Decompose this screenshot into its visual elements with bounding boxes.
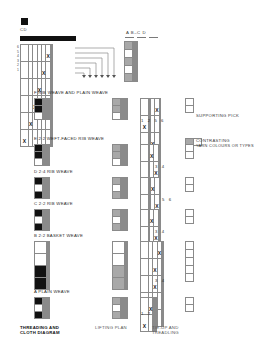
table-row: [113, 152, 128, 159]
table-row: [186, 145, 194, 152]
table-row: [113, 254, 128, 266]
section-swatch-b: [185, 241, 194, 282]
legend-label-supporting-pick: SUPPORTING PICK: [196, 113, 239, 118]
table-row: [35, 278, 50, 290]
table-row: [186, 152, 194, 159]
threading-row-numbers: 6 5 4 3 2 1: [14, 45, 19, 73]
table-row: [186, 266, 194, 274]
table-row: [35, 192, 50, 199]
table-row: [186, 242, 194, 250]
lifting-plan-a: [112, 297, 128, 319]
table-row: [113, 224, 128, 231]
table-row: X: [141, 145, 161, 162]
table-row: [186, 305, 194, 312]
table-row: [35, 266, 50, 278]
grid-mark: X: [46, 53, 49, 59]
treadling-numbers-b: 3 4: [155, 278, 166, 283]
table-row: [125, 42, 138, 50]
lifting-plan-f: [112, 98, 128, 120]
table-row: [186, 210, 194, 217]
grid-mark: X: [153, 284, 156, 290]
table-row: [35, 99, 50, 106]
table-row: [113, 178, 128, 185]
table-row: [125, 58, 138, 66]
table-row: [113, 266, 128, 278]
table-row: X: [141, 259, 164, 276]
key-black-square-icon: [21, 18, 28, 25]
table-row: [35, 312, 50, 319]
table-row: [35, 113, 50, 120]
table-row: [113, 278, 128, 290]
table-row: [113, 242, 128, 254]
table-row: [186, 106, 194, 113]
grid-mark: X: [151, 186, 154, 192]
table-row: [186, 250, 194, 258]
table-row: X: [21, 62, 53, 79]
lifting-plan-d: [112, 177, 128, 199]
table-row: [186, 274, 194, 282]
section-label-d: D 2:4 RIB WEAVE: [34, 169, 73, 174]
table-row: [186, 217, 194, 224]
footer-col3: TIE-UP AND TREADLING: [152, 325, 179, 336]
treadling-numbers-e: 3 4: [155, 164, 166, 169]
footer-col3-line2: TREADLING: [152, 330, 179, 335]
threading-cloth-diagram-c: [34, 209, 50, 231]
table-row: [35, 152, 50, 159]
header-rule: [125, 37, 134, 38]
table-row: [35, 298, 50, 305]
table-row: [125, 50, 138, 58]
grid-mark: X: [155, 107, 158, 113]
footer-col2-line1: LIFTING PLAN: [95, 325, 127, 330]
grid-mark: X: [154, 170, 157, 176]
threading-cloth-diagram-e: [34, 144, 50, 166]
table-row: X: [141, 99, 161, 116]
threading-grid[interactable]: X X X X X X: [20, 44, 53, 147]
section-swatch-c: [185, 209, 194, 224]
table-row: [113, 217, 128, 224]
table-row: [113, 192, 128, 199]
treadling-numbers-d: 5 6: [162, 197, 173, 202]
section-label-f: F RIB WEAVE AND PLAIN WEAVE: [34, 90, 108, 95]
legend-label-contrasting-line2: YARN COLOURS OR TYPES: [196, 143, 254, 148]
table-row: [113, 113, 128, 120]
header-rule: [149, 37, 158, 38]
grid-mark: X: [143, 124, 146, 130]
section-swatch-d: [185, 177, 194, 192]
table-row: X: [141, 242, 164, 259]
threading-cloth-diagram-d: [34, 177, 50, 199]
table-row: [125, 74, 138, 82]
cloth-diagram-top: [124, 41, 138, 82]
grid-mark: X: [153, 267, 156, 273]
legend-swatch-supporting-pick: [185, 98, 194, 113]
lifting-plan-c: [112, 209, 128, 231]
top-header-bar: [20, 36, 76, 41]
table-row: [113, 305, 128, 312]
table-row: [35, 106, 50, 113]
table-row: [113, 210, 128, 217]
table-row: [113, 145, 128, 152]
treadling-numbers-a: 1 2: [141, 311, 152, 316]
key-caption: CD: [20, 27, 27, 32]
table-row: [35, 210, 50, 217]
lifting-plan-b: [112, 241, 128, 290]
footer-col1-line2: CLOTH DIAGRAM: [20, 330, 60, 335]
footer-col2: LIFTING PLAN: [95, 325, 127, 330]
table-row: [35, 178, 50, 185]
cloth-diagram-header: A B–C D: [126, 30, 146, 35]
header-rule: [137, 37, 146, 38]
threading-cloth-diagram-a: [34, 297, 50, 319]
table-row: [35, 242, 50, 254]
table-row: [186, 185, 194, 192]
table-row: [186, 178, 194, 185]
table-row: [35, 159, 50, 166]
section-label-e: E 2:2 WEFT-FACED RIB WEAVE: [34, 136, 104, 141]
grid-mark: X: [150, 218, 153, 224]
table-row: X: [141, 178, 161, 195]
table-row: [35, 254, 50, 266]
grid-mark: X: [29, 121, 32, 127]
tie-up-treadling-f[interactable]: X X X: [140, 98, 161, 150]
table-row: [113, 159, 128, 166]
table-row: [113, 99, 128, 106]
table-row: [113, 312, 128, 319]
threading-cloth-diagram-f: [34, 98, 50, 120]
